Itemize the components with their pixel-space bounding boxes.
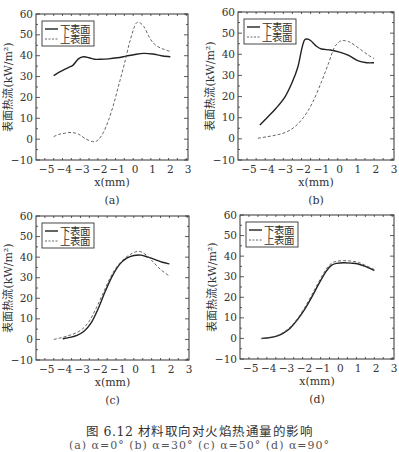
x-tick-label: −4 [259, 163, 275, 175]
y-tick-label: 0 [26, 133, 33, 145]
y-tick-label: 30 [224, 270, 237, 282]
panel-label: (b) [308, 194, 324, 207]
y-tick-label: 30 [20, 70, 33, 82]
legend: 下表面上表面 [42, 21, 94, 46]
x-tick-label: −4 [261, 362, 277, 374]
y-tick-label: 40 [20, 251, 33, 263]
chart-panel-a: −5−4−3−2−10123−100102030405060x(mm)表面热流(… [1, 8, 191, 208]
x-tick-label: 3 [391, 163, 398, 175]
x-tick-label: −2 [92, 363, 107, 375]
y-tick-label: −10 [215, 353, 237, 365]
y-tick-label: 10 [222, 111, 235, 123]
y-axis-label: 表面热流(kW/m²) [203, 41, 217, 130]
x-tick-label: −2 [297, 362, 312, 374]
x-tick-label: 0 [132, 363, 139, 375]
panel-label: (d) [309, 393, 325, 406]
legend-label: 上表面 [60, 33, 90, 45]
y-tick-label: 20 [20, 292, 33, 304]
x-tick-label: −5 [241, 163, 256, 175]
x-tick-label: −2 [296, 163, 311, 175]
chart-panel-c: −5−4−3−2−10123−100102030405060x(mm)表面热流(… [1, 210, 192, 408]
y-tick-label: 10 [20, 112, 33, 124]
y-tick-label: 30 [222, 69, 235, 81]
y-tick-label: 50 [222, 27, 235, 39]
y-tick-label: 30 [20, 271, 33, 283]
y-tick-label: 20 [222, 90, 235, 102]
x-tick-label: −4 [57, 163, 73, 175]
y-tick-label: 40 [20, 49, 33, 61]
chart-panel-b: −5−4−3−2−10123−100102030405060x(mm)表面热流(… [203, 6, 397, 208]
chart-panel-d: −5−4−3−2−10123−100102030405060x(mm)表面热流(… [205, 209, 397, 407]
series-line-upper-surface [261, 261, 374, 339]
x-tick-label: 3 [185, 163, 192, 175]
y-tick-label: 60 [20, 210, 33, 222]
x-tick-label: 3 [391, 362, 398, 374]
x-tick-label: −2 [92, 163, 107, 175]
y-tick-label: 0 [26, 333, 33, 345]
y-tick-label: 50 [224, 229, 237, 241]
y-tick-label: −10 [11, 154, 33, 166]
series-line-lower-surface [261, 263, 374, 339]
series-line-upper-surface [258, 41, 374, 139]
x-tick-label: 2 [167, 163, 174, 175]
y-tick-label: 10 [20, 312, 33, 324]
x-tick-label: −1 [110, 163, 125, 175]
x-tick-label: −1 [315, 362, 330, 374]
x-tick-label: −3 [74, 163, 89, 175]
y-tick-label: −10 [11, 354, 33, 366]
series-line-upper-surface [54, 251, 170, 339]
y-tick-label: 50 [20, 28, 33, 40]
x-tick-label: 1 [149, 163, 156, 175]
x-tick-label: 2 [168, 363, 175, 375]
x-tick-label: −3 [279, 362, 294, 374]
x-tick-label: −1 [110, 363, 125, 375]
x-axis-label: x(mm) [298, 176, 334, 189]
series-line-lower-surface [54, 53, 171, 75]
x-tick-label: 0 [336, 163, 343, 175]
legend-label: 上表面 [264, 234, 294, 246]
y-tick-label: 60 [20, 8, 33, 20]
x-axis-label: x(mm) [95, 376, 131, 389]
y-tick-label: 50 [20, 230, 33, 242]
x-tick-label: −4 [57, 363, 73, 375]
y-tick-label: 20 [20, 91, 33, 103]
figure-caption-sub: (a) α=0° (b) α=30° (c) α=50° (d) α=90° [0, 439, 399, 452]
legend: 下表面上表面 [42, 223, 94, 248]
y-tick-label: 40 [224, 250, 237, 262]
x-tick-label: 0 [132, 163, 139, 175]
x-tick-label: 2 [373, 362, 380, 374]
y-axis-label: 表面热流(kW/m²) [205, 242, 219, 331]
x-tick-label: 1 [355, 362, 362, 374]
x-tick-label: −3 [277, 163, 292, 175]
y-axis-label: 表面热流(kW/m²) [1, 243, 15, 332]
x-axis-label: x(mm) [299, 375, 335, 388]
legend: 下表面上表面 [246, 222, 298, 247]
y-tick-label: 40 [222, 48, 235, 60]
legend: 下表面上表面 [244, 19, 296, 44]
y-axis-label: 表面热流(kW/m²) [1, 42, 15, 131]
y-tick-label: 60 [222, 6, 235, 18]
y-tick-label: 60 [224, 209, 237, 221]
y-tick-label: 0 [230, 332, 237, 344]
series-line-lower-surface [260, 39, 374, 125]
x-tick-label: 1 [354, 163, 361, 175]
panel-label: (c) [105, 394, 120, 407]
x-tick-label: −5 [39, 363, 54, 375]
x-tick-label: −1 [314, 163, 329, 175]
x-axis-label: x(mm) [94, 176, 130, 189]
y-tick-label: −10 [213, 154, 235, 166]
x-tick-label: 2 [373, 163, 380, 175]
y-tick-label: 20 [224, 291, 237, 303]
legend-label: 上表面 [262, 31, 292, 43]
y-tick-label: 10 [224, 311, 237, 323]
x-tick-label: 1 [150, 363, 157, 375]
x-tick-label: −5 [39, 163, 54, 175]
figure-caption: 图 6.12 材料取向对火焰热通量的影响 [0, 421, 399, 440]
y-tick-label: 0 [228, 132, 235, 144]
x-tick-label: 0 [337, 362, 344, 374]
x-tick-label: 3 [186, 363, 193, 375]
x-tick-label: −5 [243, 362, 258, 374]
legend-label: 上表面 [60, 235, 90, 247]
x-tick-label: −3 [75, 363, 90, 375]
